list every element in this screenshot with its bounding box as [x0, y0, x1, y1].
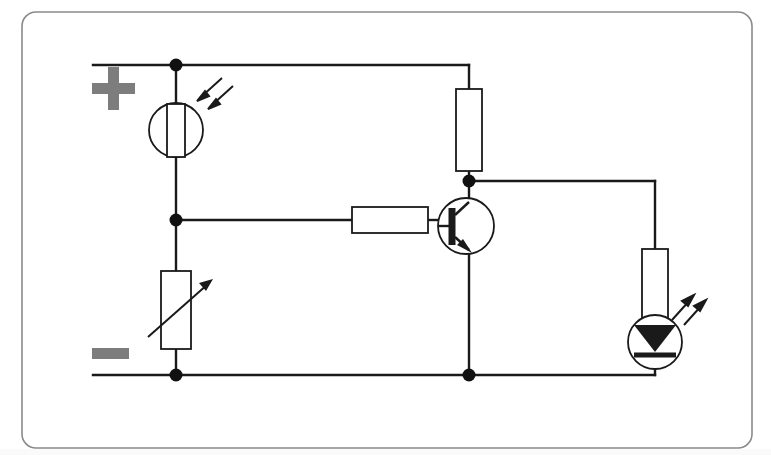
junction-divider-midpoint	[170, 214, 183, 227]
base-resistor	[352, 207, 428, 233]
npn-transistor	[438, 198, 494, 254]
variable-resistor-body	[161, 271, 191, 349]
collector-resistor	[456, 89, 482, 171]
ldr-resistor-body	[167, 104, 185, 157]
junction-positive-rail-ldr	[170, 59, 183, 72]
led-series-resistor	[642, 249, 668, 321]
junction-negative-rail-left	[170, 369, 183, 382]
led-series-resistor-body	[642, 249, 668, 321]
schematic-page: + − Light dependent resistor controlled …	[0, 0, 771, 455]
circuit-schematic	[0, 0, 771, 455]
junction-collector-node	[463, 175, 476, 188]
minus-sign-icon	[92, 348, 129, 359]
base-resistor-body	[352, 207, 428, 233]
collector-resistor-body	[456, 89, 482, 171]
page-bottom-band	[0, 449, 771, 455]
junction-emitter-ground	[463, 369, 476, 382]
